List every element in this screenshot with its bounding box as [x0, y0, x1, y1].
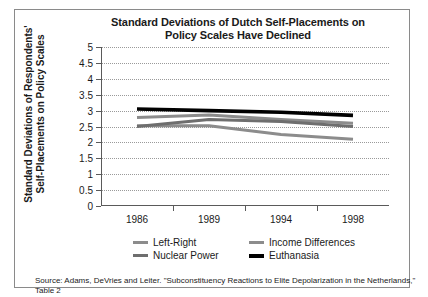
chart-figure: Standard Deviations of Dutch Self-Placem…	[14, 9, 410, 288]
y-axis-tick-label: 2	[87, 137, 93, 148]
y-axis-title: Standard Deviations of Respondents' Self…	[23, 24, 47, 204]
x-axis-tick-label: 1989	[198, 214, 220, 225]
chart-title-line-2: Policy Scales Have Declined	[71, 29, 405, 42]
chart-legend: Left-RightIncome DifferencesNuclear Powe…	[133, 237, 373, 263]
x-axis-tick	[245, 206, 246, 211]
legend-row: Nuclear PowerEuthanasia	[133, 250, 373, 261]
legend-swatch-icon	[133, 241, 148, 244]
legend-item-euthanasia[interactable]: Euthanasia	[249, 250, 355, 261]
y-axis-tick-label: 0.5	[79, 185, 93, 196]
plot-inner: 54.543.532.521.510.50 1986198919941998	[101, 47, 389, 206]
y-axis-tick-label: 4.5	[79, 57, 93, 68]
legend-label: Euthanasia	[269, 250, 319, 261]
legend-row: Left-RightIncome Differences	[133, 237, 373, 248]
legend-item-income-differences[interactable]: Income Differences	[249, 237, 355, 248]
x-axis-tick-label: 1998	[342, 214, 364, 225]
series-line-income-differences	[137, 126, 353, 139]
y-axis-tick-label: 0	[87, 201, 93, 212]
x-axis-tick-label: 1986	[126, 214, 148, 225]
plot-area: 54.543.532.521.510.50 1986198919941998	[101, 47, 389, 206]
y-axis-tick-label: 4	[87, 73, 93, 84]
legend-label: Left-Right	[153, 237, 196, 248]
legend-label: Nuclear Power	[153, 250, 219, 261]
legend-swatch-icon	[249, 254, 264, 258]
y-axis-title-line-1: Standard Deviations of Respondents'	[23, 24, 35, 204]
y-axis-tick-label: 1	[87, 169, 93, 180]
legend-item-nuclear-power[interactable]: Nuclear Power	[133, 250, 239, 261]
source-note-line-2: Table 2	[35, 286, 425, 296]
y-axis-title-line-2: Self-Placements on Policy Scales	[35, 24, 47, 204]
chart-title-line-1: Standard Deviations of Dutch Self-Placem…	[71, 16, 405, 29]
y-axis-tick-label: 3	[87, 105, 93, 116]
x-axis-tick	[173, 206, 174, 211]
series-line-euthanasia	[137, 109, 353, 115]
source-note: Source: Adams, DeVries and Leiter. "Subc…	[35, 276, 425, 296]
x-axis-tick-label: 1994	[270, 214, 292, 225]
x-axis-tick	[317, 206, 318, 211]
y-axis-tick-label: 2.5	[79, 121, 93, 132]
legend-swatch-icon	[249, 241, 264, 244]
y-axis-tick	[96, 206, 101, 207]
source-note-line-1: Source: Adams, DeVries and Leiter. "Subc…	[35, 276, 425, 286]
chart-title: Standard Deviations of Dutch Self-Placem…	[71, 16, 405, 42]
legend-item-left-right[interactable]: Left-Right	[133, 237, 239, 248]
legend-label: Income Differences	[269, 237, 355, 248]
legend-swatch-icon	[133, 254, 148, 257]
y-axis-tick-label: 1.5	[79, 153, 93, 164]
y-axis-tick-label: 5	[87, 42, 93, 53]
y-axis-tick-label: 3.5	[79, 89, 93, 100]
series-layer	[101, 47, 389, 206]
